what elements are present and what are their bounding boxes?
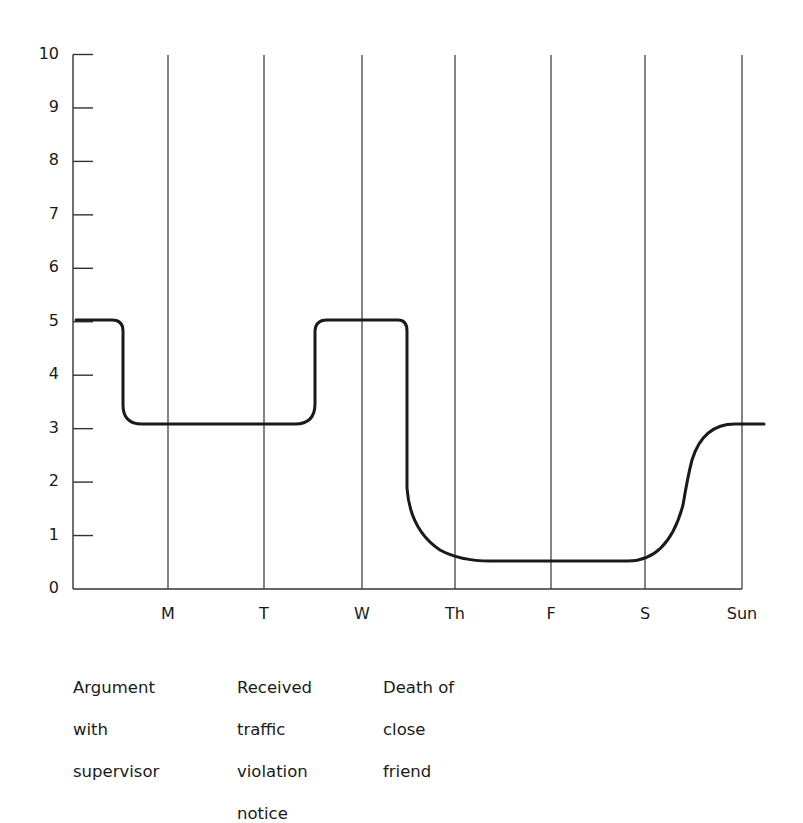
day-grid-lines: [168, 55, 742, 589]
x-tick-label-f: F: [521, 605, 581, 623]
annotation-traffic-violation: Received traffic violation notice: [237, 656, 312, 823]
annotation-line: Death of: [383, 677, 454, 698]
annotation-line: Argument: [73, 677, 159, 698]
y-tick-label: 5: [29, 312, 59, 330]
x-tick-label-th: Th: [425, 605, 485, 623]
annotation-line: with: [73, 719, 159, 740]
annotation-line: notice: [237, 803, 312, 823]
annotation-line: Received: [237, 677, 312, 698]
annotation-line: supervisor: [73, 761, 159, 782]
y-tick-label: 10: [29, 45, 59, 63]
x-tick-label-sun: Sun: [712, 605, 772, 623]
y-tick-label: 2: [29, 472, 59, 490]
annotation-death-of-friend: Death of close friend: [383, 656, 454, 803]
x-tick-label-m: M: [138, 605, 198, 623]
y-tick-label: 8: [29, 151, 59, 169]
x-tick-label-w: W: [332, 605, 392, 623]
y-tick-label: 7: [29, 205, 59, 223]
y-tick-label: 4: [29, 365, 59, 383]
annotation-line: violation: [237, 761, 312, 782]
x-tick-label-s: S: [615, 605, 675, 623]
annotation-argument: Argument with supervisor: [73, 656, 159, 803]
annotation-line: friend: [383, 761, 454, 782]
y-tick-label: 6: [29, 258, 59, 276]
y-axis-ticks: [73, 55, 93, 536]
y-tick-label: 3: [29, 419, 59, 437]
y-tick-label: 1: [29, 526, 59, 544]
stress-curve: [76, 320, 764, 561]
y-tick-label: 9: [29, 98, 59, 116]
y-tick-label: 0: [29, 579, 59, 597]
annotation-line: traffic: [237, 719, 312, 740]
annotation-line: close: [383, 719, 454, 740]
x-tick-label-t: T: [234, 605, 294, 623]
